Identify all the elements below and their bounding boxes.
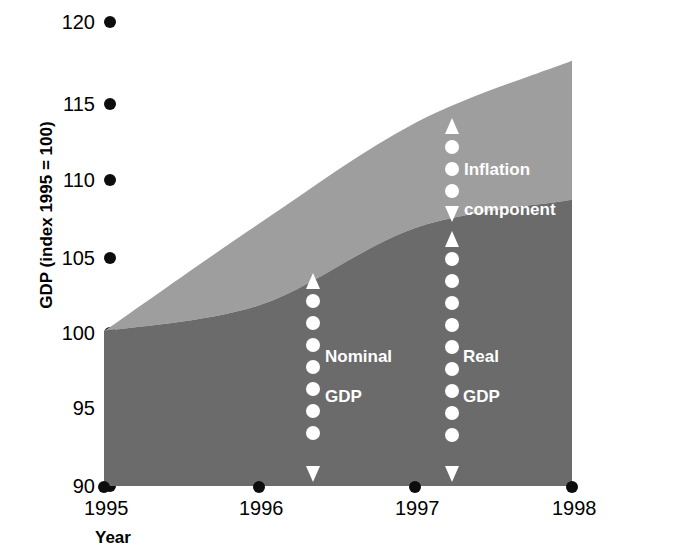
x-axis-tick-1997: 1997	[395, 481, 435, 520]
x-axis-tick-1998: 1998	[552, 481, 592, 520]
annotation-real-line-1: Real	[463, 347, 500, 367]
x-axis-tick-label-1998: 1998	[552, 496, 592, 520]
annotation-real-gdp: Real GDP	[463, 327, 500, 427]
x-axis-tick-label-1996: 1996	[239, 496, 279, 520]
x-axis-tick-dot-icon	[98, 481, 110, 493]
annotation-nominal-line-2: GDP	[325, 387, 392, 407]
x-axis-title: Year	[95, 528, 131, 548]
x-axis-tick-1995: 1995	[84, 481, 124, 520]
plot-area	[0, 0, 699, 555]
annotation-inflation-line-1: Inflation	[464, 160, 556, 180]
x-axis-tick-label-1997: 1997	[395, 496, 435, 520]
x-axis-tick-label-1995: 1995	[84, 496, 124, 520]
inflation-component-leader-arrow	[445, 118, 459, 222]
x-axis-tick-dot-icon	[409, 481, 421, 493]
x-axis-tick-dot-icon	[566, 481, 578, 493]
gdp-area-chart: 120 115 110 105 100 95 90 GDP (index 199…	[0, 0, 699, 555]
x-axis-tick-1996: 1996	[239, 481, 279, 520]
annotation-inflation-component: Inflation component	[464, 140, 556, 240]
x-axis-tick-dot-icon	[253, 481, 265, 493]
annotation-nominal-line-1: Nominal	[325, 347, 392, 367]
annotation-real-line-2: GDP	[463, 387, 500, 407]
annotation-inflation-line-2: component	[464, 200, 556, 220]
annotation-nominal-gdp: Nominal GDP	[325, 327, 392, 427]
